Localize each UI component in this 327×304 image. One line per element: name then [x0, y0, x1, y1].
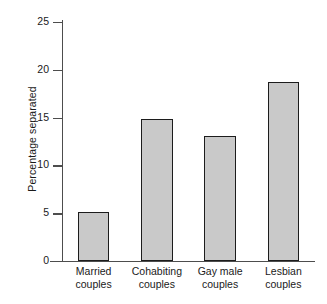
x-axis-category-label: Gay malecouples	[189, 265, 252, 290]
x-axis-category-label-line: couples	[125, 278, 188, 291]
x-axis-category-label-line: Married	[62, 265, 125, 278]
bar	[204, 136, 236, 261]
x-axis-category-label-line: Gay male	[189, 265, 252, 278]
plot-area	[62, 22, 315, 261]
bar	[268, 82, 300, 261]
x-axis-category-label: Marriedcouples	[62, 265, 125, 290]
y-axis-tick-label: 5	[43, 206, 49, 218]
y-axis-tick-label: 25	[37, 15, 49, 27]
y-axis-title: Percentage separated	[26, 44, 38, 234]
x-axis-category-label-line: Cohabiting	[125, 265, 188, 278]
y-axis-tick: 20	[53, 70, 62, 71]
x-axis-category-label-line: couples	[189, 278, 252, 291]
x-axis-category-label-line: couples	[252, 278, 315, 291]
y-axis-tick-label: 0	[43, 254, 49, 266]
y-axis-tick: 10	[53, 165, 62, 166]
bar	[78, 212, 110, 261]
bar-chart-figure: Percentage separated 0510152025 Marriedc…	[0, 0, 327, 304]
y-axis-tick-label: 15	[37, 111, 49, 123]
y-axis-tick: 15	[53, 118, 62, 119]
y-axis-tick: 25	[53, 22, 62, 23]
y-axis-tick: 0	[53, 261, 62, 262]
x-axis-category-label-line: couples	[62, 278, 125, 291]
x-axis-category-label: Lesbiancouples	[252, 265, 315, 290]
x-axis-category-label: Cohabitingcouples	[125, 265, 188, 290]
y-axis-tick-label: 20	[37, 63, 49, 75]
y-axis-tick-label: 10	[37, 158, 49, 170]
y-axis-tick: 5	[53, 213, 62, 214]
x-axis-line	[50, 261, 315, 262]
bar	[141, 119, 173, 261]
x-axis-category-label-line: Lesbian	[252, 265, 315, 278]
